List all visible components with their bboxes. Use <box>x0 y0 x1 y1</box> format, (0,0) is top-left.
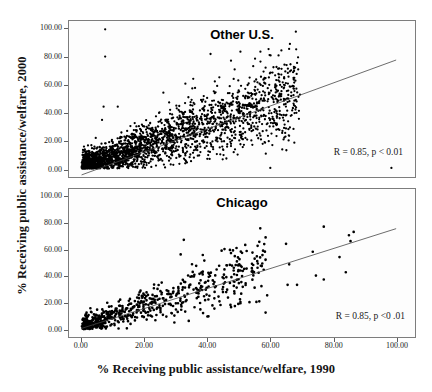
x-tick-label: 20.00 <box>122 341 166 350</box>
x-tick-label: 60.00 <box>248 341 292 350</box>
y-tick-label: 0.00 <box>16 325 62 334</box>
x-tick-label: 80.00 <box>312 341 356 350</box>
figure-root: % Receiving public assistance/welfare, 2… <box>0 0 432 392</box>
x-tick-mark <box>397 338 398 342</box>
x-tick-mark <box>144 338 145 342</box>
stats-annotation-other-us: R = 0.85, p < 0.01 <box>334 147 403 157</box>
x-tick-label: 0.00 <box>59 341 103 350</box>
x-tick-mark <box>270 338 271 342</box>
panel-chicago: Chicago R = 0.85, p <0 .01 <box>68 188 416 338</box>
regression-line <box>82 60 397 175</box>
y-axis-title: % Receiving public assistance/welfare, 2… <box>15 46 30 306</box>
y-tick-label: 100.00 <box>16 23 62 32</box>
x-tick-label: 40.00 <box>185 341 229 350</box>
x-tick-mark <box>207 338 208 342</box>
panel-title-chicago: Chicago <box>69 195 415 210</box>
panel-title-other-us: Other U.S. <box>69 27 415 42</box>
stats-annotation-chicago: R = 0.85, p <0 .01 <box>336 311 405 321</box>
scatter-points <box>81 225 355 330</box>
panel-other-us: Other U.S. R = 0.85, p < 0.01 <box>68 20 416 178</box>
x-tick-mark <box>334 338 335 342</box>
x-tick-mark <box>81 338 82 342</box>
x-tick-label: 100.00 <box>375 341 419 350</box>
x-axis-title: % Receiving public assistance/welfare, 1… <box>0 362 432 377</box>
